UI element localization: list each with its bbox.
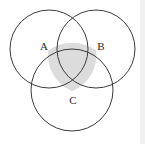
vertex-label-b: B bbox=[97, 40, 104, 52]
vertex-label-a: A bbox=[40, 40, 48, 52]
right-edge-band bbox=[140, 0, 145, 144]
vertex-label-c: C bbox=[69, 94, 76, 106]
venn-diagram-figure: A B C bbox=[0, 0, 145, 144]
venn-diagram-canvas: A B C bbox=[0, 0, 145, 144]
